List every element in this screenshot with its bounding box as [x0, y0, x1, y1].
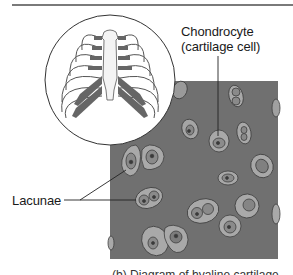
- figure-caption: (b) Diagram of hyaline cartilage: [112, 268, 279, 275]
- chondrocyte-label: Chondrocyte (cartilage cell): [181, 24, 260, 54]
- lacunae-label: Lacunae: [12, 193, 61, 208]
- rib-cage-inset: [45, 15, 175, 145]
- chondrocyte-label-line2: (cartilage cell): [181, 39, 260, 54]
- chondrocyte-label-line1: Chondrocyte: [181, 24, 260, 39]
